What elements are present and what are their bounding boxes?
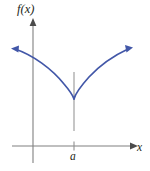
- curve-right-arrowhead-icon: [125, 45, 133, 52]
- y-axis: [30, 18, 37, 163]
- x-axis-label: x: [137, 142, 142, 154]
- curve-left-arrowhead-icon: [11, 45, 19, 52]
- plot-canvas: [0, 0, 150, 171]
- curve-right-path: [74, 49, 129, 100]
- x-axis: [12, 143, 138, 150]
- y-axis-arrowhead-icon: [30, 18, 37, 26]
- curve-left-branch: [11, 45, 74, 99]
- y-axis-label: f(x): [17, 3, 34, 16]
- function-graph-figure: f(x) x a: [0, 0, 150, 171]
- point-label-a: a: [70, 151, 76, 163]
- curve-right-branch: [74, 45, 133, 99]
- curve-left-path: [15, 49, 74, 99]
